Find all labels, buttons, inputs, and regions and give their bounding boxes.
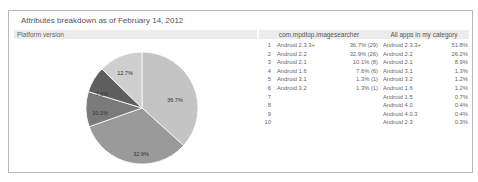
category-column-header: All apps in my category <box>379 30 469 39</box>
table-row: 5 Android 3.1 1.3% (1) Android 3.2 1.2% <box>259 75 469 84</box>
category-value: 26.2% <box>419 50 468 59</box>
app-version: Android 2.1 <box>277 58 307 67</box>
table-row: 7 Android 1.5 0.7% <box>259 93 469 102</box>
version-table: 1 Android 2.3.3+ 36.7% (29) Android 2.3.… <box>259 41 469 127</box>
category-version: Android 2.3.3+ <box>383 41 421 50</box>
table-row: 9 Android 4.0.3 0.4% <box>259 110 469 119</box>
category-value: 1.2% <box>419 75 468 84</box>
category-version: Android 3.1 <box>383 67 413 76</box>
row-rank: 1 <box>261 41 271 50</box>
row-rank: 4 <box>261 67 271 76</box>
category-value: 51.8% <box>419 41 468 50</box>
app-value: 10.1% (8) <box>319 58 378 67</box>
category-version: Android 1.5 <box>383 93 413 102</box>
category-version: Android 3.2 <box>383 75 413 84</box>
app-value: 7.6% (6) <box>319 67 378 76</box>
pie-label-s2: 32.9% <box>133 151 149 157</box>
row-rank: 9 <box>261 110 271 119</box>
category-value: 1.3% <box>419 67 468 76</box>
pie-label-s5: 12.7% <box>117 70 133 76</box>
row-rank: 7 <box>261 93 271 102</box>
app-value: 36.7% (29) <box>319 41 378 50</box>
row-rank: 2 <box>261 50 271 59</box>
app-value: 1.3% (1) <box>319 75 378 84</box>
app-version: Android 3.1 <box>277 75 307 84</box>
table-row: 4 Android 1.6 7.6% (6) Android 3.1 1.3% <box>259 67 469 76</box>
row-rank: 8 <box>261 101 271 110</box>
category-value: 8.9% <box>419 58 468 67</box>
table-row: 10 Android 2.3 0.3% <box>259 118 469 127</box>
category-version: Android 2.3 <box>383 118 413 127</box>
app-version: Android 2.3.3+ <box>277 41 315 50</box>
row-rank: 5 <box>261 75 271 84</box>
section-label: Platform version <box>17 30 64 39</box>
section-header: Platform version <box>14 30 257 39</box>
table-row: 6 Android 3.2 1.3% (1) Android 1.6 1.2% <box>259 84 469 93</box>
row-rank: 10 <box>261 118 271 127</box>
category-value: 0.4% <box>419 101 468 110</box>
panel-title: Attributes breakdown as of February 14, … <box>21 16 183 25</box>
category-version: Android 4.0 <box>383 101 413 110</box>
category-value: 1.2% <box>419 84 468 93</box>
row-rank: 3 <box>261 58 271 67</box>
app-column-header: com.mpdtop.imagesearcher <box>259 30 379 39</box>
table-row: 2 Android 2.2 32.9% (26) Android 2.2 26.… <box>259 50 469 59</box>
table-row: 3 Android 2.1 10.1% (8) Android 2.1 8.9% <box>259 58 469 67</box>
app-value: 32.9% (26) <box>319 50 378 59</box>
pie-label-s1: 36.7% <box>167 97 183 103</box>
pie-label-s4: 7.6% <box>96 91 109 97</box>
row-rank: 6 <box>261 84 271 93</box>
app-version: Android 1.6 <box>277 67 307 76</box>
table-row: 1 Android 2.3.3+ 36.7% (29) Android 2.3.… <box>259 41 469 50</box>
category-value: 0.4% <box>419 110 468 119</box>
category-version: Android 2.2 <box>383 50 413 59</box>
category-version: Android 4.0.3 <box>383 110 417 119</box>
app-value: 1.3% (1) <box>319 84 378 93</box>
category-version: Android 1.6 <box>383 84 413 93</box>
category-version: Android 2.1 <box>383 58 413 67</box>
attributes-panel: Attributes breakdown as of February 14, … <box>8 10 473 173</box>
platform-pie-chart: 36.7% 32.9% 10.1% 7.6% 12.7% <box>79 45 205 171</box>
category-value: 0.3% <box>419 118 468 127</box>
pie-label-s3: 10.1% <box>92 110 108 116</box>
app-version: Android 2.2 <box>277 50 307 59</box>
table-row: 8 Android 4.0 0.4% <box>259 101 469 110</box>
app-version: Android 3.2 <box>277 84 307 93</box>
category-value: 0.7% <box>419 93 468 102</box>
